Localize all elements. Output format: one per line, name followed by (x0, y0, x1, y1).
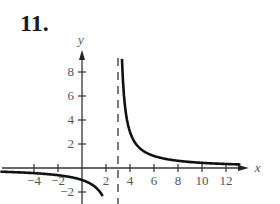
y-tick-label: 2 (68, 136, 75, 151)
graph: xy−4−224681012−22468 (0, 0, 280, 204)
x-tick-label: 8 (175, 173, 182, 188)
y-tick-label: 8 (68, 64, 75, 79)
curve-right-branch (122, 59, 240, 165)
x-tick-label: 2 (103, 173, 110, 188)
x-tick-label: 4 (127, 173, 134, 188)
x-tick-label: 6 (151, 173, 158, 188)
x-tick-label: 12 (220, 173, 233, 188)
y-tick-label: 6 (68, 88, 75, 103)
y-tick-label: 4 (68, 112, 75, 127)
x-axis-label: x (254, 160, 261, 175)
y-tick-label: −2 (60, 184, 74, 199)
x-axis-arrow-icon (238, 165, 249, 171)
y-axis-arrow-icon (79, 50, 85, 60)
x-tick-label: 10 (196, 173, 209, 188)
y-axis-label: y (76, 32, 84, 47)
x-tick-label: −4 (27, 173, 41, 188)
